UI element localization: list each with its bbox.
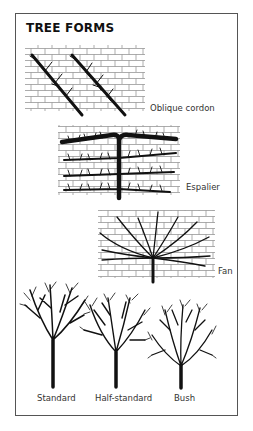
label-oblique-cordon: Oblique cordon	[150, 103, 215, 113]
label-half-standard: Half-standard	[95, 393, 152, 403]
fan-illustration	[98, 210, 215, 282]
label-bush: Bush	[174, 393, 195, 403]
label-fan: Fan	[218, 266, 233, 276]
espalier-illustration	[58, 125, 180, 198]
tree-forms-illustration	[0, 0, 253, 431]
label-espalier: Espalier	[186, 182, 220, 192]
half-standard-tree-illustration	[80, 293, 150, 387]
oblique-cordon-illustration	[25, 45, 145, 115]
brick-wall	[25, 45, 145, 111]
bush-tree-illustration	[148, 300, 216, 388]
standard-tree-illustration	[20, 282, 90, 387]
label-standard: Standard	[37, 393, 76, 403]
